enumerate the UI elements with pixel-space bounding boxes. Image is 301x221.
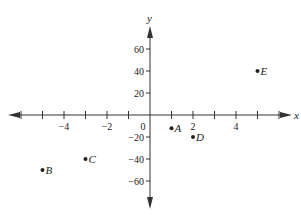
y-axis-up-arrow-icon: [147, 26, 153, 38]
point-label: B: [46, 164, 53, 176]
x-tick-label: −4: [59, 121, 70, 132]
point-label: E: [260, 65, 268, 77]
point-label: A: [174, 122, 182, 134]
x-axis-label: x: [293, 109, 299, 121]
x-tick-label: 4: [234, 121, 239, 132]
y-axis-label: y: [146, 12, 152, 24]
point-a: A: [170, 122, 182, 134]
point-marker-icon: [170, 126, 174, 130]
point-e: E: [256, 65, 268, 77]
point-b: B: [41, 164, 53, 176]
axes: xy: [8, 12, 299, 209]
point-marker-icon: [191, 135, 195, 139]
x-axis-left-arrow-icon: [8, 112, 20, 118]
y-tick-label: 40: [134, 66, 144, 77]
point-label: C: [89, 153, 97, 165]
point-label: D: [195, 131, 204, 143]
y-axis-down-arrow-icon: [147, 197, 153, 209]
point-marker-icon: [84, 157, 88, 161]
point-d: D: [191, 131, 204, 143]
y-tick-label: −60: [128, 176, 144, 187]
point-marker-icon: [41, 168, 45, 172]
x-tick-label: 0: [141, 121, 146, 132]
y-tick-label: −20: [128, 132, 144, 143]
x-tick-label: −2: [102, 121, 113, 132]
x-tick-label: 2: [191, 121, 196, 132]
scatter-chart: xy −4−2024604020−20−40−60 ABCDE: [0, 0, 301, 221]
x-axis-right-arrow-icon: [280, 112, 292, 118]
point-marker-icon: [256, 69, 260, 73]
y-tick-label: 60: [134, 44, 144, 55]
y-tick-label: −40: [128, 154, 144, 165]
point-c: C: [84, 153, 97, 165]
y-tick-label: 20: [134, 88, 144, 99]
